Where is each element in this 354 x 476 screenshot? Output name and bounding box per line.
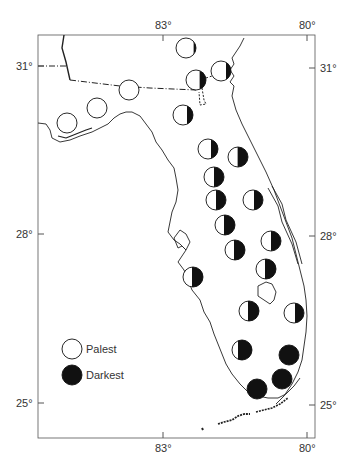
site-marker	[232, 340, 252, 360]
lon-label-top-83: 83°	[155, 19, 172, 31]
legend-label-darkest: Darkest	[86, 369, 124, 381]
legend-label-palest: Palest	[86, 343, 117, 355]
site-marker	[225, 240, 245, 260]
florida-map: 83° 80° 83° 80° 31° 31° 28° 28° 25° 25° …	[0, 0, 354, 476]
lake-okeechobee	[258, 282, 276, 304]
site-marker	[261, 231, 281, 251]
site-marker	[211, 61, 231, 81]
site-marker	[247, 379, 267, 399]
lon-label-top-80: 80°	[299, 19, 316, 31]
site-marker	[57, 113, 77, 133]
site-marker	[186, 70, 206, 90]
site-marker	[206, 190, 226, 210]
lon-label-bottom-80: 80°	[299, 442, 316, 454]
lat-label-right-28: 28°	[320, 230, 337, 242]
site-marker	[119, 80, 139, 100]
site-marker	[198, 139, 218, 159]
site-marker	[284, 303, 304, 323]
lat-label-left-25: 25°	[16, 397, 33, 409]
lat-label-left-31: 31°	[16, 60, 33, 72]
lat-label-right-31: 31°	[320, 62, 337, 74]
lon-label-bottom-83: 83°	[155, 442, 172, 454]
map-legend: Palest Darkest	[62, 339, 124, 385]
legend-swatch-palest	[62, 339, 82, 359]
site-marker	[256, 259, 276, 279]
site-marker	[173, 105, 193, 125]
site-marker	[183, 267, 203, 287]
site-marker	[279, 345, 299, 365]
site-marker	[272, 369, 292, 389]
site-marker	[243, 190, 263, 210]
site-marker	[176, 38, 196, 58]
site-marker	[228, 147, 248, 167]
site-marker	[215, 215, 235, 235]
lat-label-left-28: 28°	[16, 228, 33, 240]
site-marker	[239, 301, 259, 321]
lat-label-right-25: 25°	[320, 399, 337, 411]
legend-swatch-darkest	[62, 365, 82, 385]
site-marker	[204, 167, 224, 187]
site-marker	[87, 98, 107, 118]
